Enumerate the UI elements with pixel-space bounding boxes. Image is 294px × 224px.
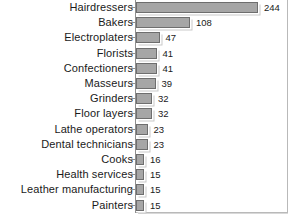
- bar: [136, 32, 160, 43]
- bar-chart: Hairdressers244Bakers108Electroplaters47…: [0, 0, 294, 224]
- category-label: Florists: [97, 46, 133, 61]
- bar: [136, 93, 152, 104]
- bar-row: Floor layers32: [0, 106, 294, 121]
- bar: [136, 124, 148, 135]
- category-label: Grinders: [90, 91, 133, 106]
- category-label: Lathe operators: [54, 122, 133, 137]
- bar-value-label: 15: [150, 167, 161, 182]
- bar-value-label: 41: [163, 46, 174, 61]
- bar-value-label: 15: [150, 198, 161, 213]
- bar-row: Bakers108: [0, 15, 294, 30]
- category-label: Leather manufacturing: [21, 182, 133, 197]
- bar: [136, 139, 148, 150]
- axis-tick: [130, 159, 135, 160]
- category-label: Dental technicians: [41, 137, 133, 152]
- bar-value-label: 47: [166, 30, 177, 45]
- bar-value-label: 41: [163, 61, 174, 76]
- axis-tick: [130, 98, 135, 99]
- bar-row: Health services15: [0, 167, 294, 182]
- bar: [136, 48, 157, 59]
- bar-value-label: 15: [150, 182, 161, 197]
- bar: [136, 154, 144, 165]
- bar-row: Dental technicians23: [0, 137, 294, 152]
- axis-tick: [130, 68, 135, 69]
- axis-tick: [130, 53, 135, 54]
- bar-value-label: 39: [162, 76, 173, 91]
- bar-row: Cooks16: [0, 152, 294, 167]
- category-label: Masseurs: [85, 76, 133, 91]
- bar: [136, 78, 156, 89]
- bar-value-label: 23: [154, 137, 165, 152]
- axis-tick: [130, 205, 135, 206]
- category-label: Confectioners: [64, 61, 133, 76]
- bar: [136, 200, 144, 211]
- bar-value-label: 108: [196, 15, 212, 30]
- bar: [136, 108, 152, 119]
- bar-row: Electroplaters47: [0, 30, 294, 45]
- axis-tick: [130, 113, 135, 114]
- axis-tick: [130, 144, 135, 145]
- axis-tick: [130, 174, 135, 175]
- bar-row: Confectioners41: [0, 61, 294, 76]
- bar-value-label: 244: [264, 0, 280, 15]
- axis-tick: [130, 129, 135, 130]
- category-label: Painters: [92, 198, 133, 213]
- bar: [136, 63, 157, 74]
- bar-row: Florists41: [0, 46, 294, 61]
- bar-row: Painters15: [0, 198, 294, 213]
- bar-value-label: 32: [158, 106, 169, 121]
- bar: [136, 169, 144, 180]
- category-label: Electroplaters: [64, 30, 133, 45]
- axis-tick: [130, 22, 135, 23]
- bar-value-label: 23: [154, 122, 165, 137]
- category-label: Bakers: [98, 15, 133, 30]
- bar: [136, 2, 258, 13]
- category-label: Cooks: [101, 152, 133, 167]
- category-label: Hairdressers: [69, 0, 133, 15]
- bar-row: Leather manufacturing15: [0, 182, 294, 197]
- bar: [136, 184, 144, 195]
- axis-tick: [130, 7, 135, 8]
- bar-row: Hairdressers244: [0, 0, 294, 15]
- bar-rows-container: Hairdressers244Bakers108Electroplaters47…: [0, 0, 294, 213]
- axis-tick: [130, 37, 135, 38]
- bar: [136, 17, 190, 28]
- category-label: Floor layers: [74, 106, 133, 121]
- category-label: Health services: [56, 167, 133, 182]
- bar-row: Lathe operators23: [0, 122, 294, 137]
- axis-tick: [130, 83, 135, 84]
- bar-row: Masseurs39: [0, 76, 294, 91]
- axis-tick: [130, 189, 135, 190]
- bar-value-label: 32: [158, 91, 169, 106]
- bar-row: Grinders32: [0, 91, 294, 106]
- bar-value-label: 16: [150, 152, 161, 167]
- plot-baseline-shadow: [138, 213, 288, 214]
